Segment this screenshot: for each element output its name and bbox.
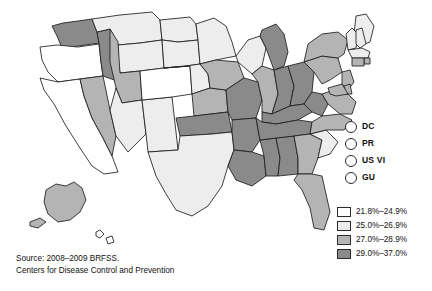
- circle-outline-icon: [345, 138, 357, 150]
- legend-item: 27.0%–28.9%: [337, 233, 432, 247]
- legend-label: 25.0%–26.9%: [356, 222, 407, 230]
- state-WY: [118, 40, 164, 73]
- state-MN: [196, 18, 236, 64]
- state-RI: [364, 58, 370, 64]
- figure-root: DC PR US VI GU 21.8%–24.9% 25.0%–26.9% 2…: [0, 0, 432, 291]
- circle-outline-icon: [345, 155, 357, 167]
- map-legend: 21.8%–24.9% 25.0%–26.9% 27.0%–28.9% 29.0…: [337, 205, 432, 261]
- source-line-1: Source: 2008–2009 BRFSS.: [16, 253, 276, 265]
- legend-item: 21.8%–24.9%: [337, 205, 432, 219]
- state-AK: [44, 182, 86, 222]
- legend-swatch-icon: [337, 235, 351, 245]
- state-CT: [352, 58, 364, 66]
- territory-item-dc: DC: [345, 118, 423, 135]
- state-OR: [40, 44, 103, 82]
- territory-legend: DC PR US VI GU: [345, 118, 423, 186]
- state-NM: [142, 97, 178, 152]
- legend-item: 25.0%–26.9%: [337, 219, 432, 233]
- territory-label: DC: [362, 122, 375, 131]
- state-CO: [140, 66, 192, 100]
- source-line-2: Centers for Disease Control and Preventi…: [16, 265, 276, 277]
- source-attribution: Source: 2008–2009 BRFSS. Centers for Dis…: [16, 253, 276, 276]
- state-AR: [232, 118, 260, 152]
- legend-swatch-icon: [337, 249, 351, 259]
- territory-label: GU: [362, 173, 375, 182]
- state-MA: [348, 48, 370, 58]
- circle-outline-icon: [345, 172, 357, 184]
- territory-label: US VI: [362, 156, 385, 165]
- legend-swatch-icon: [337, 207, 351, 217]
- state-LA: [228, 150, 266, 186]
- state-OK: [176, 112, 232, 136]
- state-SD: [162, 40, 200, 68]
- territory-item-pr: PR: [345, 135, 423, 152]
- territory-item-usvi: US VI: [345, 152, 423, 169]
- legend-swatch-icon: [337, 221, 351, 231]
- territory-label: PR: [362, 139, 374, 148]
- state-AK-aleutians: [30, 218, 46, 228]
- state-KS: [192, 88, 228, 116]
- legend-label: 27.0%–28.9%: [356, 236, 407, 244]
- state-HI-2: [106, 236, 114, 244]
- legend-label: 29.0%–37.0%: [356, 250, 407, 258]
- legend-label: 21.8%–24.9%: [356, 208, 407, 216]
- state-WA: [52, 19, 99, 48]
- state-GA: [294, 134, 322, 174]
- legend-item: 29.0%–37.0%: [337, 247, 432, 261]
- territory-item-gu: GU: [345, 169, 423, 186]
- state-HI: [96, 230, 104, 238]
- circle-outline-icon: [345, 121, 357, 133]
- state-FL: [294, 174, 330, 230]
- state-ND: [160, 17, 198, 42]
